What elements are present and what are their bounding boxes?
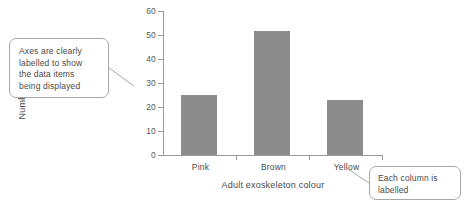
callout-column-note: Each column is labelled (369, 166, 461, 200)
figure-canvas: Number of locusts 0 10 20 30 40 50 (0, 0, 470, 214)
callout-axes-note: Axes are clearly labelled to show the da… (9, 38, 109, 98)
callout-axes-note-text: Axes are clearly labelled to show the da… (19, 46, 108, 92)
callout-column-note-text: Each column is labelled (378, 173, 460, 196)
